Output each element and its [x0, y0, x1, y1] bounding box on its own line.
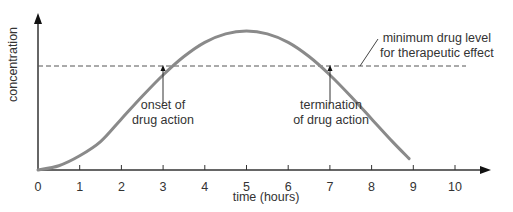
termination-label-line2: of drug action [293, 113, 369, 128]
onset-label-line2: drug action [132, 113, 194, 128]
min-level-label-line1: minimum drug level [380, 31, 494, 46]
x-tick-label: 2 [118, 180, 125, 194]
y-axis-arrow-icon [34, 13, 42, 24]
x-tick-label: 4 [201, 180, 208, 194]
concentration-time-chart: 012345678910 concentration time (hours) … [0, 0, 513, 212]
x-tick-label: 0 [35, 180, 42, 194]
x-tick-label: 3 [160, 180, 167, 194]
x-axis-label: time (hours) [233, 190, 300, 205]
onset-label: onset of drug action [132, 98, 194, 128]
y-axis-label: concentration [6, 27, 20, 102]
x-tick-label: 7 [326, 180, 333, 194]
onset-label-line1: onset of [132, 98, 194, 113]
min-level-leader [360, 39, 378, 66]
x-tick-label: 8 [368, 180, 375, 194]
termination-label-line1: termination [293, 98, 369, 113]
termination-label: termination of drug action [293, 98, 369, 128]
min-level-label: minimum drug level for therapeutic effec… [380, 31, 494, 61]
x-tick-label: 10 [448, 180, 462, 194]
x-tick-label: 1 [76, 180, 83, 194]
min-level-label-line2: for therapeutic effect [380, 46, 494, 61]
x-axis-arrow-icon [480, 166, 491, 174]
x-tick-label: 9 [410, 180, 417, 194]
